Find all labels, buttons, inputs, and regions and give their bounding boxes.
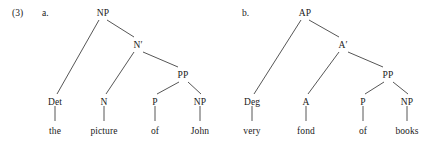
tree-leaf-word: of <box>359 126 367 136</box>
tree-branch <box>365 82 384 94</box>
tree-node-label: NP <box>97 8 109 18</box>
tree-node-label: A′ <box>338 40 347 50</box>
tree-branch <box>188 82 201 94</box>
tree-branch <box>57 20 99 94</box>
tree-node-label: AP <box>299 8 311 18</box>
tree-leaf-word: John <box>191 126 209 136</box>
tree-node-label: N <box>101 97 108 107</box>
tree-branch <box>107 20 134 37</box>
tree-branch <box>348 52 383 67</box>
tree-branch <box>106 52 134 94</box>
tree-node-label: NP <box>401 97 413 107</box>
tree-branch <box>143 52 178 67</box>
tree-branch <box>309 20 339 37</box>
tree-node-label: A <box>303 97 310 107</box>
tree-node-label: Det <box>48 97 62 107</box>
tree-node-label: PP <box>178 70 189 80</box>
sub-example-letter-tree-a: a. <box>42 8 49 18</box>
tree-branch <box>393 82 408 94</box>
tree-node-label: PP <box>383 70 394 80</box>
tree-leaf-word: of <box>151 126 159 136</box>
example-number: (3) <box>12 8 23 18</box>
tree-branch <box>254 20 301 94</box>
tree-edges-layer <box>0 0 437 141</box>
tree-node-label: NP <box>194 97 206 107</box>
tree-leaf-word: fond <box>297 126 315 136</box>
tree-leaf-word: the <box>49 126 61 136</box>
tree-node-label: Deg <box>244 97 260 107</box>
tree-node-label: P <box>360 97 365 107</box>
tree-leaf-word: picture <box>90 126 117 136</box>
sub-example-letter-tree-b: b. <box>242 8 249 18</box>
tree-branch <box>157 82 179 94</box>
syntax-tree-figure: (3)a.NPN′PPDetNPNPthepictureofJohnb.APA′… <box>0 0 437 141</box>
tree-node-label: P <box>152 97 157 107</box>
tree-node-label: N′ <box>133 40 142 50</box>
tree-branch <box>308 52 339 94</box>
tree-leaf-word: very <box>243 126 260 136</box>
tree-leaf-word: books <box>395 126 418 136</box>
